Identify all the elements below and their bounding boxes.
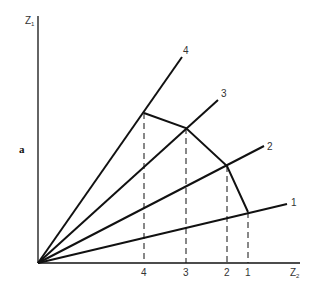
ray-4	[38, 57, 182, 263]
ray-2-label: 2	[267, 141, 273, 152]
ray-1-label: 1	[291, 197, 297, 208]
x-axis-label: Z2	[290, 267, 300, 279]
ray-diagram: 4 3 2 1 4 3 2 1 Z1 Z2 a	[0, 0, 315, 289]
x-tick-1: 1	[245, 267, 251, 278]
ray-3	[38, 100, 218, 263]
x-tick-3: 3	[183, 267, 189, 278]
x-tick-4: 4	[141, 267, 147, 278]
ray-2	[38, 146, 264, 263]
ray-3-label: 3	[221, 88, 227, 99]
ray-1	[38, 204, 287, 263]
diagram: 4 3 2 1 4 3 2 1 Z1 Z2 a	[0, 0, 315, 289]
panel-label: a	[19, 143, 25, 155]
x-tick-2: 2	[224, 267, 230, 278]
y-axis-label: Z1	[25, 15, 35, 27]
ray-4-label: 4	[183, 45, 189, 56]
